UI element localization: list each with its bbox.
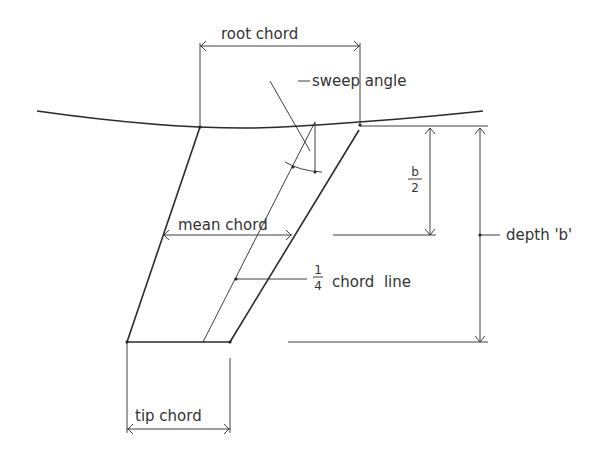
fuselage-root-curve bbox=[37, 111, 483, 128]
quarter-denominator: 4 bbox=[314, 279, 322, 293]
sweep-arc-point bbox=[292, 166, 295, 169]
wing-planform-diagram: sweep angle root chord b 2 depth 'b' mea… bbox=[0, 0, 609, 462]
root-chord-label: root chord bbox=[221, 25, 298, 43]
depth-label: depth 'b' bbox=[506, 226, 572, 244]
tip-te-point bbox=[228, 340, 231, 343]
mean-chord-label: mean chord bbox=[178, 216, 268, 234]
sweep-leader-diag bbox=[270, 81, 310, 151]
leading-edge bbox=[127, 127, 200, 342]
half-span-numerator: b bbox=[411, 165, 419, 179]
quarter-numerator: 1 bbox=[314, 263, 322, 277]
sweep-angle-label: sweep angle bbox=[312, 72, 406, 90]
tip-chord-label: tip chord bbox=[135, 407, 202, 425]
sweep-arc-point-2 bbox=[314, 171, 317, 174]
half-span-denominator: 2 bbox=[411, 181, 419, 195]
quarter-chord-line-label: chord line bbox=[332, 273, 411, 291]
